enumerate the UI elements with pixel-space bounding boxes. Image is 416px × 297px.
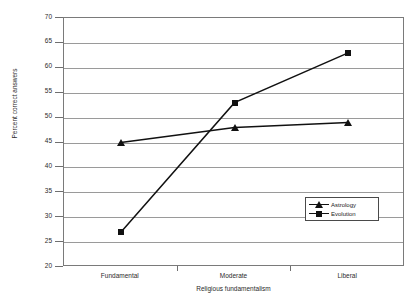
x-axis-title: Religious fundamentalism (63, 285, 404, 292)
legend-item-evolution: Evolution (309, 209, 375, 218)
y-axis-label: 65 (28, 38, 52, 45)
plot-area (63, 17, 404, 266)
y-axis-tick (55, 42, 63, 43)
y-axis-tick (55, 92, 63, 93)
data-point-marker (344, 119, 352, 126)
legend-label: Evolution (331, 211, 356, 217)
chart-title (0, 0, 416, 4)
data-point-marker (118, 229, 124, 235)
y-axis-tick (55, 241, 63, 242)
y-axis-tick (55, 67, 63, 68)
legend-item-astrology: Astrology (309, 200, 375, 209)
y-axis-label: 25 (28, 238, 52, 245)
y-axis-label: 40 (28, 163, 52, 170)
x-axis-label: Fundamental (75, 273, 165, 280)
data-point-marker (345, 50, 351, 56)
y-axis-title: Percent correct answers (11, 44, 18, 164)
data-point-marker (232, 100, 238, 106)
data-point-marker (117, 139, 125, 146)
y-axis-label: 30 (28, 213, 52, 220)
y-axis-tick (55, 216, 63, 217)
data-point-marker (231, 124, 239, 131)
square-marker-icon (309, 209, 329, 218)
series-lines (64, 18, 405, 267)
chart-legend: Astrology Evolution (305, 197, 379, 221)
y-axis-tick (55, 166, 63, 167)
y-axis-label: 50 (28, 113, 52, 120)
y-axis-tick (55, 266, 63, 267)
x-axis-label: Moderate (189, 273, 279, 280)
y-axis-tick (55, 117, 63, 118)
triangle-marker-icon (309, 200, 329, 209)
x-axis-tick (290, 266, 291, 271)
x-axis-label: Liberal (302, 273, 392, 280)
y-axis-label: 35 (28, 188, 52, 195)
chart-root: Percent correct answers 7065605550454035… (0, 0, 416, 297)
x-axis-tick (177, 266, 178, 271)
legend-label: Astrology (331, 202, 356, 208)
y-axis-tick (55, 17, 63, 18)
y-axis-label: 60 (28, 63, 52, 70)
y-axis-tick (55, 142, 63, 143)
y-axis-label: 55 (28, 88, 52, 95)
y-axis-label: 70 (28, 14, 52, 21)
y-axis-tick (55, 191, 63, 192)
y-axis-label: 20 (28, 263, 52, 270)
y-axis-label: 45 (28, 138, 52, 145)
